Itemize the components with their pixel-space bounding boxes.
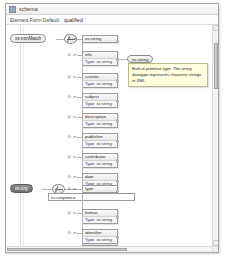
scroll-up-arrow-icon[interactable] — [213, 25, 219, 31]
root-node-bottom[interactable]: xs:org — [10, 184, 33, 193]
diagram-frame-line-secondary — [23, 25, 24, 246]
connector-element-to-type — [119, 59, 127, 60]
element-form-default-value[interactable]: qualified — [64, 17, 83, 23]
occurrence-indicator: 0..∞ — [68, 114, 76, 119]
element-node[interactable]: type — [82, 185, 118, 193]
diagram-frame-line — [20, 25, 21, 246]
element-connector-handle[interactable] — [116, 40, 119, 43]
element-node[interactable]: publisher Type: xs:string — [82, 133, 118, 148]
element-node[interactable]: identifier Type: xs:string — [82, 229, 118, 244]
type-node-xs-string[interactable]: xs:string — [127, 55, 153, 63]
element-name: date — [83, 174, 117, 181]
element-name: type — [83, 186, 117, 192]
element-connector-handle[interactable] — [116, 80, 119, 83]
root-node-top[interactable]: xs:nonMatch — [10, 34, 46, 43]
horizontal-scrollbar[interactable] — [6, 246, 212, 252]
vertical-scrollbar[interactable] — [212, 25, 218, 246]
occurrence-indicator: 0..∞ — [68, 52, 76, 57]
element-node[interactable]: description Type: xs:string — [82, 113, 118, 128]
occurrence-indicator: 0..∞ — [68, 94, 76, 99]
element-type: Type: xs:string — [83, 59, 117, 65]
root-node-bottom-label: xs:org — [15, 186, 28, 191]
element-name: description — [83, 114, 117, 121]
occurrence-indicator: 0..∞ — [68, 186, 76, 191]
occurrence-indicator: 0..∞ — [68, 154, 76, 159]
element-type: Type: xs:string — [83, 237, 117, 243]
element-type: Type: xs:string — [83, 161, 117, 167]
element-connector-handle[interactable] — [116, 180, 119, 183]
element-name: xs:string — [83, 36, 117, 42]
element-node[interactable]: creator Type: xs:string — [82, 73, 118, 88]
scrollbar-corner — [212, 246, 218, 252]
horizontal-scrollbar-thumb[interactable] — [7, 248, 127, 251]
element-node[interactable]: format Type: xs:string — [82, 209, 118, 224]
connector-root-bottom-to-compositor — [42, 189, 52, 190]
element-name: format — [83, 210, 117, 217]
element-form-default-label: Element Form Default: — [10, 17, 60, 23]
occurrence-indicator: 0..∞ — [68, 174, 76, 179]
element-connector-handle[interactable] — [116, 236, 119, 239]
element-type: Type: xs:string — [83, 81, 117, 87]
type-tooltip: Built-in primitive type. The string data… — [128, 63, 208, 87]
element-connector-handle[interactable] — [116, 140, 119, 143]
occurrence-indicator: 0..∞ — [68, 134, 76, 139]
vertical-scrollbar-thumb[interactable] — [214, 43, 218, 89]
element-type: Type: xs:string — [83, 217, 117, 223]
element-node[interactable]: title Type: xs:string — [82, 51, 118, 66]
element-node[interactable]: xs:string — [82, 35, 118, 43]
element-name: publisher — [83, 134, 117, 141]
occurrence-indicator: 0..∞ — [68, 74, 76, 79]
element-name: creator — [83, 74, 117, 81]
element-node[interactable]: contributor Type: xs:string — [82, 153, 118, 168]
element-name: subject — [83, 94, 117, 101]
schema-icon — [9, 6, 16, 13]
element-name: title — [83, 52, 117, 59]
element-connector-handle[interactable] — [116, 120, 119, 123]
element-type: Type: xs:string — [83, 141, 117, 147]
element-connector-handle[interactable] — [116, 100, 119, 103]
element-name: identifier — [83, 230, 117, 237]
occurrence-indicator: 0..∞ — [68, 36, 76, 41]
element-connector-handle[interactable] — [116, 160, 119, 163]
type-node-label: xs:string — [132, 57, 148, 62]
window-title: schema — [19, 6, 38, 12]
root-node-top-label: xs:nonMatch — [15, 36, 41, 41]
window-titlebar: schema — [6, 4, 218, 15]
xs-sequence-label: xs:sequence — [51, 195, 76, 200]
type-tooltip-text: Built-in primitive type. The string data… — [132, 66, 201, 83]
connector-root-top-to-compositor — [56, 39, 64, 40]
element-name: contributor — [83, 154, 117, 161]
schema-diagram-canvas[interactable]: xs:nonMatch 0..∞ xs:string 0..∞ title Ty… — [6, 25, 212, 246]
element-connector-handle[interactable] — [116, 216, 119, 219]
element-node[interactable]: subject Type: xs:string — [82, 93, 118, 108]
xs-sequence-field[interactable]: xs:sequence — [48, 193, 135, 201]
occurrence-indicator: 0..∞ — [68, 210, 76, 215]
element-type: Type: xs:string — [83, 121, 117, 127]
element-type: Type: xs:string — [83, 101, 117, 107]
occurrence-indicator: 0..∞ — [68, 230, 76, 235]
element-form-default-bar: Element Form Default: qualified — [6, 15, 218, 25]
schema-editor-window: schema Element Form Default: qualified x… — [5, 3, 219, 253]
diagram-content: xs:nonMatch 0..∞ xs:string 0..∞ title Ty… — [6, 25, 212, 246]
